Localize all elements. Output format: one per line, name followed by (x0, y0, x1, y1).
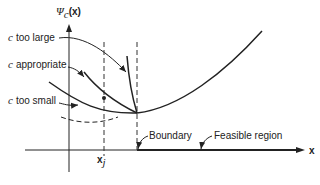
boundary-label: Boundary (149, 130, 192, 141)
label-appropriate: cappropriate (8, 58, 67, 70)
curve-too-large (127, 56, 137, 113)
leader-appropriate (68, 67, 84, 77)
label-too-large: ctoo large (8, 31, 55, 43)
diagram-canvas: Ψc(x) ctoo large cappropriate ctoo small… (0, 0, 320, 185)
feasible-region-label: Feasible region (214, 130, 282, 141)
curve-dashed (61, 117, 118, 122)
xj-point (102, 96, 106, 100)
y-axis-arrow-icon (66, 24, 72, 32)
x-axis-label: x (309, 145, 315, 156)
curve-main (49, 31, 262, 113)
xj-label: xj (97, 154, 106, 168)
label-too-small: ctoo small (8, 94, 56, 106)
y-axis-label: Ψc(x) (56, 5, 81, 20)
leader-boundary (138, 136, 148, 149)
leader-feasible (201, 136, 212, 149)
